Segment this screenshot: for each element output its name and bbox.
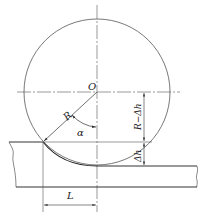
dh-label: Δh <box>133 150 143 163</box>
deformation-arc <box>43 142 97 166</box>
roll-bite-diagram: O R α R−Δh Δh L <box>0 0 211 217</box>
workpiece-right-break <box>196 166 197 187</box>
r-minus-dh-label: R−Δh <box>133 103 143 131</box>
center-label: O <box>88 81 96 92</box>
radius-label: R <box>60 109 74 123</box>
angle-label: α <box>77 127 84 138</box>
angle-arc <box>72 115 96 127</box>
workpiece-left-break <box>9 142 16 187</box>
l-label: L <box>66 190 74 201</box>
